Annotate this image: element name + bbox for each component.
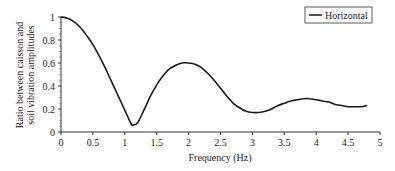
x-tick-label: 3 (250, 137, 255, 148)
y-tick-label: 1 (50, 12, 55, 23)
x-tick-label: 1.5 (150, 137, 163, 148)
x-tick-label: 4.5 (342, 137, 355, 148)
x-tick-label: 0.5 (87, 137, 100, 148)
x-tick-label: 4 (314, 137, 319, 148)
y-axis-title-line2: soil vibration amplitudes (25, 25, 36, 125)
y-tick-label: 0.2 (43, 104, 56, 115)
legend-label-horizontal: Horizontal (325, 10, 368, 21)
y-axis-title-line1: Ratio between caisson and (14, 22, 25, 128)
y-tick-label: 0 (50, 127, 55, 138)
y-tick-label: 0.4 (43, 81, 56, 92)
series-line-horizontal (61, 17, 367, 126)
legend: Horizontal (305, 7, 372, 23)
x-tick-label: 2 (186, 137, 191, 148)
y-tick-label: 0.8 (43, 35, 56, 46)
x-tick-label: 2.5 (214, 137, 227, 148)
line-chart: 00.20.40.60.81 00.511.522.533.544.55 Fre… (0, 0, 395, 171)
x-tick-label: 3.5 (278, 137, 291, 148)
x-tick-label: 0 (59, 137, 64, 148)
x-tick-label: 5 (378, 137, 383, 148)
y-tick-label: 0.6 (43, 58, 56, 69)
x-axis-ticks: 00.511.522.533.544.55 (59, 132, 383, 148)
x-tick-label: 1 (122, 137, 127, 148)
y-axis-ticks: 00.20.40.60.81 (43, 12, 62, 138)
x-axis-title: Frequency (Hz) (188, 152, 251, 164)
